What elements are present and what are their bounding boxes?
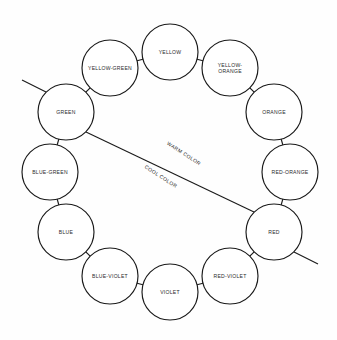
hue-label-red-orange: RED-ORANGE <box>271 169 308 175</box>
connector-red-violet-to-violet <box>197 283 203 285</box>
connector-yellow-orange-to-orange <box>250 88 254 92</box>
connector-blue-green-to-green <box>57 139 59 145</box>
zone-label-group: WARM COLORCOOL COLOR <box>144 140 203 189</box>
color-wheel-canvas: YELLOWYELLOW-ORANGEORANGERED-ORANGEREDRE… <box>0 0 337 340</box>
connector-orange-to-red-orange <box>281 139 283 145</box>
connector-red-orange-to-red <box>281 199 283 205</box>
connector-blue-to-blue-green <box>57 199 59 205</box>
connector-blue-violet-to-blue <box>86 252 90 256</box>
hue-label-blue-green: BLUE-GREEN <box>32 169 68 175</box>
connector-violet-to-blue-violet <box>137 283 143 285</box>
hue-node-orange[interactable]: ORANGE <box>246 84 302 140</box>
zone-label-warm: WARM COLOR <box>166 140 202 166</box>
hue-node-blue-green[interactable]: BLUE-GREEN <box>22 144 78 200</box>
hue-node-yellow[interactable]: YELLOW <box>142 24 198 80</box>
hue-node-violet[interactable]: VIOLET <box>142 264 198 320</box>
hue-label-red-violet: RED-VIOLET <box>213 273 246 279</box>
connector-yellow-green-to-yellow <box>137 59 143 61</box>
connector-red-to-red-violet <box>250 252 254 256</box>
hue-node-red-violet[interactable]: RED-VIOLET <box>202 248 258 304</box>
hue-node-blue[interactable]: BLUE <box>38 204 94 260</box>
hue-node-yellow-green[interactable]: YELLOW-GREEN <box>82 40 138 96</box>
hue-label-red: RED <box>268 229 280 235</box>
connector-green-to-yellow-green <box>86 88 90 92</box>
hue-node-yellow-orange[interactable]: YELLOW-ORANGE <box>202 40 258 96</box>
hue-label-blue-violet: BLUE-VIOLET <box>92 273 128 279</box>
connector-yellow-to-yellow-orange <box>197 59 203 61</box>
hue-node-blue-violet[interactable]: BLUE-VIOLET <box>82 248 138 304</box>
hue-label-yellow-green: YELLOW-GREEN <box>88 65 132 71</box>
green-tick <box>22 80 46 92</box>
hue-label-blue: BLUE <box>59 229 74 235</box>
color-wheel-diagram: YELLOWYELLOW-ORANGEORANGERED-ORANGEREDRE… <box>0 0 337 340</box>
hue-label-green: GREEN <box>56 109 75 115</box>
hue-node-red[interactable]: RED <box>246 204 302 260</box>
hue-label-yellow-orange: YELLOW- <box>218 62 243 68</box>
red-tick <box>294 252 318 264</box>
hue-node-red-orange[interactable]: RED-ORANGE <box>262 144 318 200</box>
hue-label-yellow: YELLOW <box>159 49 182 55</box>
hue-label-violet: VIOLET <box>160 289 180 295</box>
hue-node-green[interactable]: GREEN <box>38 84 94 140</box>
hue-label-yellow-orange: ORANGE <box>218 68 242 74</box>
hue-label-orange: ORANGE <box>262 109 286 115</box>
